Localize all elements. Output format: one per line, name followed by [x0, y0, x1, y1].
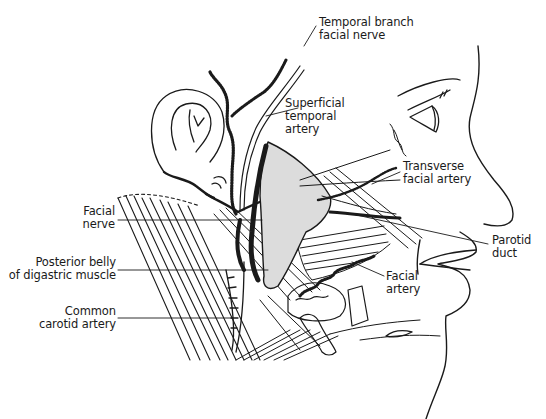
label-superficial-temporal-artery: Superficial temporal artery [285, 97, 345, 136]
label-posterior-belly-digastric: Posterior belly of digastric muscle [8, 256, 116, 282]
anatomy-figure: Temporal branch facial nerve Superficial… [0, 0, 546, 419]
label-facial-nerve: Facial nerve [60, 205, 115, 231]
strap-muscles [236, 320, 440, 360]
label-parotid-duct: Parotid duct [492, 234, 531, 260]
label-facial-artery: Facial artery [386, 270, 420, 296]
label-transverse-facial-artery: Transverse facial artery [403, 160, 471, 186]
submandibular-gland [288, 283, 368, 326]
temple-hatching [390, 124, 406, 156]
label-common-carotid-artery: Common carotid artery [20, 305, 116, 331]
label-temporal-branch-facial-nerve: Temporal branch facial nerve [319, 16, 414, 42]
ear [152, 89, 227, 198]
superficial-temporal-artery [210, 72, 236, 214]
eye [398, 79, 460, 132]
